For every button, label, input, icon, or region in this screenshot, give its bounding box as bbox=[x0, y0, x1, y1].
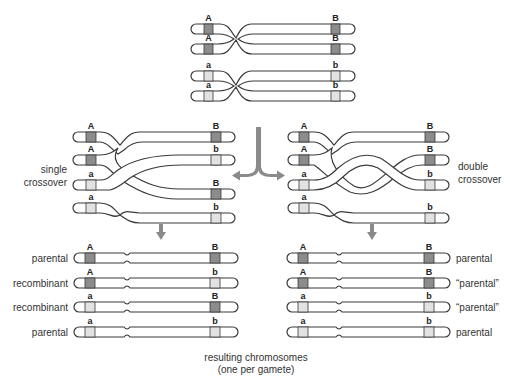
band-b bbox=[211, 155, 221, 165]
allele-label: A bbox=[87, 267, 94, 277]
down-arrow-icon bbox=[156, 224, 166, 240]
allele-label: A bbox=[88, 121, 95, 131]
allele-label: b bbox=[426, 316, 432, 326]
band-b bbox=[425, 180, 435, 190]
allele-label: B bbox=[212, 291, 219, 301]
band-a bbox=[86, 180, 96, 190]
top-chromatid-2 bbox=[191, 71, 355, 101]
allele-label: b bbox=[333, 80, 339, 90]
single-results: A B parental A b recombinant a B recombi… bbox=[13, 242, 238, 338]
band-b bbox=[425, 213, 435, 223]
allele-label: b bbox=[426, 291, 432, 301]
allele-label: a bbox=[87, 316, 93, 326]
allele-label: b bbox=[213, 202, 219, 212]
band-B bbox=[211, 132, 221, 142]
branch-arrow-icon bbox=[232, 127, 285, 181]
allele-label: A bbox=[300, 267, 307, 277]
result-label: recombinant bbox=[13, 302, 68, 313]
allele-label: a bbox=[301, 169, 307, 179]
result-label: parental bbox=[456, 253, 492, 264]
allele-label: a bbox=[88, 192, 94, 202]
allele-label: B bbox=[427, 121, 434, 131]
allele-label: a bbox=[87, 291, 93, 301]
double-crossover-label: crossover bbox=[458, 174, 502, 185]
result-chromosome: a b “parental” bbox=[287, 291, 499, 313]
double-results: A B parental A B “parental” a b “parenta… bbox=[287, 242, 499, 338]
band-b bbox=[211, 213, 221, 223]
result-label: parental bbox=[32, 253, 68, 264]
allele-label: B bbox=[332, 33, 339, 43]
band-a bbox=[204, 91, 213, 101]
allele-label: b bbox=[212, 316, 218, 326]
result-chromosome: a b parental bbox=[287, 316, 492, 338]
result-label: “parental” bbox=[456, 302, 499, 313]
allele-label: A bbox=[301, 121, 308, 131]
allele-label: B bbox=[213, 121, 220, 131]
result-label: parental bbox=[456, 327, 492, 338]
caption-line-1: resulting chromosomes bbox=[204, 352, 307, 363]
double-crossover-label: double bbox=[458, 161, 488, 172]
single-crossover-diagram: A A a a B b B b single crossover bbox=[24, 121, 235, 223]
result-label: recombinant bbox=[13, 278, 68, 289]
allele-label: B bbox=[213, 178, 220, 188]
allele-label: b bbox=[333, 60, 339, 70]
allele-label: a bbox=[88, 169, 94, 179]
result-chromosome: A B parental bbox=[32, 242, 238, 264]
band-A bbox=[204, 44, 213, 54]
allele-label: a bbox=[301, 192, 307, 202]
allele-label: A bbox=[205, 13, 212, 23]
single-crossover-label: crossover bbox=[24, 177, 68, 188]
allele-label: A bbox=[205, 33, 212, 43]
allele-label: a bbox=[300, 291, 306, 301]
result-label: “parental” bbox=[456, 278, 499, 289]
top-homolog-pair: A A a a B B b b bbox=[191, 13, 355, 101]
band-A bbox=[299, 132, 309, 142]
result-chromosome: A B “parental” bbox=[287, 267, 499, 289]
result-label: parental bbox=[32, 327, 68, 338]
band-a bbox=[299, 203, 309, 213]
band-A bbox=[299, 155, 309, 165]
caption-line-2: (one per gamete) bbox=[218, 364, 295, 375]
result-chromosome: a B recombinant bbox=[13, 291, 238, 313]
top-chromatid-1 bbox=[191, 24, 355, 54]
result-chromosome: a b parental bbox=[32, 316, 238, 338]
allele-label: B bbox=[212, 242, 219, 252]
allele-label: a bbox=[206, 60, 212, 70]
down-arrow-icon bbox=[367, 224, 377, 240]
allele-label: a bbox=[300, 316, 306, 326]
allele-label: A bbox=[301, 144, 308, 154]
allele-label: b bbox=[213, 144, 219, 154]
allele-label: A bbox=[300, 242, 307, 252]
allele-label: A bbox=[87, 242, 94, 252]
allele-label: A bbox=[88, 144, 95, 154]
band-B bbox=[425, 155, 435, 165]
band-b bbox=[331, 91, 340, 101]
result-chromosome: A b recombinant bbox=[13, 267, 238, 289]
allele-label: B bbox=[426, 267, 433, 277]
allele-label: B bbox=[427, 144, 434, 154]
band-a bbox=[299, 180, 309, 190]
band-A bbox=[86, 132, 96, 142]
allele-label: B bbox=[426, 242, 433, 252]
result-chromosome: A B parental bbox=[287, 242, 492, 264]
allele-label: b bbox=[427, 202, 433, 212]
allele-label: b bbox=[427, 169, 433, 179]
allele-label: b bbox=[212, 267, 218, 277]
double-crossover-diagram: A A a a B B b b double crossover bbox=[288, 121, 502, 223]
band-A bbox=[86, 155, 96, 165]
single-crossover-label: single bbox=[41, 164, 68, 175]
band-B bbox=[425, 132, 435, 142]
allele-label: B bbox=[332, 13, 339, 23]
band-a bbox=[86, 203, 96, 213]
crossover-diagram: A A a a B B b b A A a a B bbox=[0, 0, 512, 376]
band-B bbox=[331, 44, 340, 54]
band-B bbox=[211, 189, 221, 199]
